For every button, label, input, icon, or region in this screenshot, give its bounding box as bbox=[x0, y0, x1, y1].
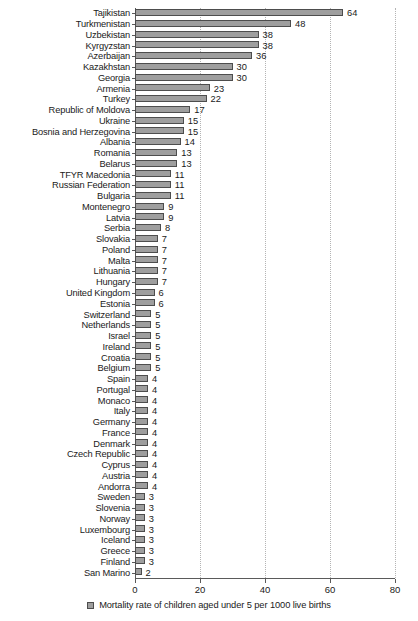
bar-row: Denmark4 bbox=[135, 438, 395, 449]
bar-value-label: 4 bbox=[152, 460, 157, 470]
bar-value-label: 7 bbox=[162, 277, 167, 287]
bar-value-label: 5 bbox=[155, 353, 160, 363]
category-label: United Kingdom bbox=[66, 288, 130, 298]
category-label: Belarus bbox=[100, 159, 130, 169]
bar-value-label: 4 bbox=[152, 374, 157, 384]
category-label: San Marino bbox=[84, 568, 130, 578]
x-tick-label-80: 80 bbox=[390, 584, 401, 595]
bar bbox=[135, 407, 148, 414]
bar-row: Israel5 bbox=[135, 331, 395, 342]
bar bbox=[135, 149, 177, 156]
bar bbox=[135, 117, 184, 124]
bar-value-label: 7 bbox=[162, 245, 167, 255]
category-label: Cyprus bbox=[101, 460, 130, 470]
bar-value-label: 30 bbox=[237, 73, 247, 83]
bar-row: Greece3 bbox=[135, 546, 395, 557]
bar-row: Azerbaijan36 bbox=[135, 51, 395, 62]
bar bbox=[135, 224, 161, 231]
bar-value-label: 3 bbox=[149, 546, 154, 556]
bar bbox=[135, 342, 151, 349]
bar-row: Czech Republic4 bbox=[135, 449, 395, 460]
x-tick-60 bbox=[330, 579, 331, 583]
bar bbox=[135, 450, 148, 457]
bar bbox=[135, 256, 158, 263]
category-label: Armenia bbox=[96, 84, 130, 94]
bar-value-label: 11 bbox=[175, 170, 185, 180]
category-label: Tajikistan bbox=[93, 8, 130, 18]
bar-row: Russian Federation11 bbox=[135, 180, 395, 191]
category-label: Portugal bbox=[97, 385, 130, 395]
category-label: Azerbaijan bbox=[88, 51, 130, 61]
category-label: Greece bbox=[100, 546, 130, 556]
category-label: Finland bbox=[101, 557, 130, 567]
bar-value-label: 5 bbox=[155, 310, 160, 320]
bar-value-label: 4 bbox=[152, 417, 157, 427]
bar bbox=[135, 84, 210, 91]
bar-row: Belgium5 bbox=[135, 363, 395, 374]
bar-value-label: 15 bbox=[188, 127, 198, 137]
category-label: Latvia bbox=[106, 213, 130, 223]
bar-value-label: 4 bbox=[152, 428, 157, 438]
bar-chart: Tajikistan64Turkmenistan48Uzbekistan38Ky… bbox=[0, 0, 418, 621]
bar bbox=[135, 353, 151, 360]
category-label: Russian Federation bbox=[52, 180, 130, 190]
category-label: Italy bbox=[114, 406, 130, 416]
category-label: Montenegro bbox=[82, 202, 130, 212]
category-label: Georgia bbox=[98, 73, 130, 83]
bar-row: Poland7 bbox=[135, 245, 395, 256]
bar-row: Germany4 bbox=[135, 417, 395, 428]
x-tick-label-20: 20 bbox=[195, 584, 206, 595]
bar bbox=[135, 461, 148, 468]
bar bbox=[135, 332, 151, 339]
bar bbox=[135, 203, 164, 210]
bar-value-label: 38 bbox=[263, 41, 273, 51]
bar-row: Serbia8 bbox=[135, 223, 395, 234]
bar-value-label: 30 bbox=[237, 62, 247, 72]
bar-value-label: 13 bbox=[181, 148, 191, 158]
bar-value-label: 64 bbox=[347, 8, 357, 18]
bar-row: Sweden3 bbox=[135, 492, 395, 503]
bar-row: Iceland3 bbox=[135, 535, 395, 546]
legend-square-marker-icon bbox=[87, 602, 94, 609]
bar-value-label: 4 bbox=[152, 471, 157, 481]
bar-value-label: 4 bbox=[152, 396, 157, 406]
bar-value-label: 3 bbox=[149, 525, 154, 535]
x-tick-80 bbox=[395, 579, 396, 583]
bar bbox=[135, 547, 145, 554]
bar-row: Kyrgyzstan38 bbox=[135, 40, 395, 51]
bar bbox=[135, 74, 233, 81]
bar bbox=[135, 471, 148, 478]
bar bbox=[135, 504, 145, 511]
bar-value-label: 6 bbox=[159, 299, 164, 309]
category-label: Croatia bbox=[101, 353, 130, 363]
category-label: Serbia bbox=[104, 223, 130, 233]
category-label: Norway bbox=[99, 514, 130, 524]
category-label: Andorra bbox=[98, 482, 130, 492]
bar-value-label: 6 bbox=[159, 288, 164, 298]
category-label: Monaco bbox=[98, 396, 130, 406]
bar-row: France4 bbox=[135, 427, 395, 438]
bar-value-label: 7 bbox=[162, 266, 167, 276]
category-label: Republic of Moldova bbox=[49, 105, 130, 115]
bar-row: Kazakhstan30 bbox=[135, 62, 395, 73]
bar-row: Republic of Moldova17 bbox=[135, 105, 395, 116]
category-label: Ukraine bbox=[99, 116, 130, 126]
bar-row: Andorra4 bbox=[135, 481, 395, 492]
bar-row: Bulgaria11 bbox=[135, 191, 395, 202]
category-label: Albania bbox=[100, 137, 130, 147]
bar-value-label: 9 bbox=[168, 202, 173, 212]
bar-value-label: 11 bbox=[175, 191, 185, 201]
bar-value-label: 13 bbox=[181, 159, 191, 169]
bar-row: Portugal4 bbox=[135, 384, 395, 395]
category-label: Netherlands bbox=[82, 320, 130, 330]
category-label: Sweden bbox=[97, 492, 130, 502]
bar bbox=[135, 557, 145, 564]
category-label: Romania bbox=[94, 148, 130, 158]
category-label: Uzbekistan bbox=[86, 30, 131, 40]
legend-label: Mortality rate of children aged under 5 … bbox=[99, 600, 331, 611]
bar bbox=[135, 568, 142, 575]
bar bbox=[135, 170, 171, 177]
bar-row: Turkmenistan48 bbox=[135, 19, 395, 30]
bar-value-label: 4 bbox=[152, 449, 157, 459]
bar bbox=[135, 321, 151, 328]
